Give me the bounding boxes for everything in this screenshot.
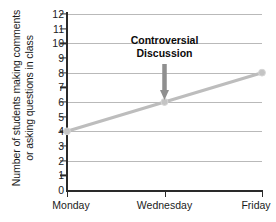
annotation-line-2: Discussion (131, 47, 199, 60)
line-chart: Number of students making comments or as… (0, 0, 276, 222)
annotation-controversial-discussion: Controversial Discussion (131, 34, 199, 60)
data-point-marker (259, 69, 266, 76)
annotation-line-1: Controversial (131, 34, 199, 47)
data-point-marker (64, 128, 71, 135)
annotation-arrow-icon (160, 64, 169, 100)
